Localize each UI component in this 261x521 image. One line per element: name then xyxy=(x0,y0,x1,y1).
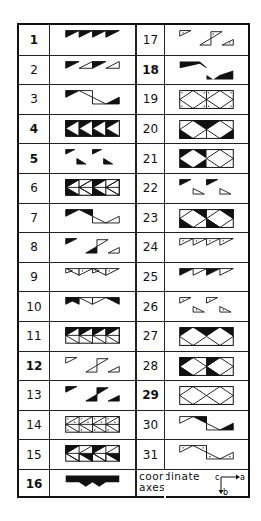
pattern-8-icon xyxy=(49,233,136,262)
pattern-27-icon xyxy=(165,322,248,351)
pattern-number: 17 xyxy=(136,25,165,55)
pattern-4-icon xyxy=(49,115,136,144)
pattern-number: 9 xyxy=(19,263,49,292)
table-row: 117 xyxy=(19,25,248,55)
coordinate-axes-label: coordinateaxes xyxy=(139,471,200,493)
pattern-number: 18 xyxy=(136,56,165,85)
pattern-number: 6 xyxy=(19,174,49,203)
pattern-number: 10 xyxy=(19,292,49,321)
label-line-2: axes xyxy=(139,481,165,493)
pattern-number: 24 xyxy=(136,233,165,262)
pattern-number: 20 xyxy=(136,115,165,144)
table-row: 521 xyxy=(19,143,248,173)
pattern-9-icon xyxy=(49,263,136,292)
pattern-24-icon xyxy=(165,233,248,262)
pattern-number: 22 xyxy=(136,174,165,203)
pattern-number: 16 xyxy=(19,470,49,499)
coordinate-axes-legend: coordinateaxescab xyxy=(136,470,248,499)
table-row: 622 xyxy=(19,173,248,203)
pattern-21-icon xyxy=(165,144,248,173)
pattern-number: 15 xyxy=(19,440,49,469)
table-row: 218 xyxy=(19,55,248,85)
pattern-number: 12 xyxy=(19,352,49,381)
pattern-18-icon xyxy=(165,56,248,85)
pattern-number: 4 xyxy=(19,115,49,144)
svg-text:a: a xyxy=(240,473,245,482)
table-row: 16coordinateaxescab xyxy=(19,469,248,499)
pattern-17-icon xyxy=(165,25,248,55)
pattern-28-icon xyxy=(165,352,248,381)
svg-text:b: b xyxy=(223,488,228,497)
pattern-29-icon xyxy=(165,381,248,410)
table-row: 1329 xyxy=(19,380,248,410)
pattern-14-icon xyxy=(49,411,136,440)
pattern-13-icon xyxy=(49,381,136,410)
pattern-number: 25 xyxy=(136,263,165,292)
pattern-number: 2 xyxy=(19,56,49,85)
pattern-10-icon xyxy=(49,292,136,321)
pattern-22-icon xyxy=(165,174,248,203)
table-row: 723 xyxy=(19,203,248,233)
pattern-number: 19 xyxy=(136,85,165,114)
pattern-number: 3 xyxy=(19,85,49,114)
axes-arrows-icon: cab xyxy=(215,472,245,498)
pattern-number: 1 xyxy=(19,25,49,55)
table-row: 824 xyxy=(19,232,248,262)
pattern-number: 13 xyxy=(19,381,49,410)
table-row: 1026 xyxy=(19,291,248,321)
pattern-31-icon xyxy=(165,440,248,469)
symmetry-table: 1172183194205216227238249251026112712281… xyxy=(17,23,250,498)
table-row: 1430 xyxy=(19,410,248,440)
table-row: 1228 xyxy=(19,351,248,381)
pattern-15-icon xyxy=(49,440,136,469)
pattern-5-icon xyxy=(49,144,136,173)
pattern-number: 8 xyxy=(19,233,49,262)
pattern-number: 27 xyxy=(136,322,165,351)
pattern-number: 29 xyxy=(136,381,165,410)
pattern-number: 28 xyxy=(136,352,165,381)
pattern-number: 26 xyxy=(136,292,165,321)
table-row: 925 xyxy=(19,262,248,292)
pattern-number: 23 xyxy=(136,204,165,233)
pattern-number: 5 xyxy=(19,144,49,173)
table-row: 420 xyxy=(19,114,248,144)
pattern-25-icon xyxy=(165,263,248,292)
pattern-19-icon xyxy=(165,85,248,114)
table-row: 319 xyxy=(19,84,248,114)
table-row: 1127 xyxy=(19,321,248,351)
pattern-1-icon xyxy=(49,25,136,55)
table-row: 1531 xyxy=(19,439,248,469)
pattern-23-icon xyxy=(165,204,248,233)
pattern-30-icon xyxy=(165,411,248,440)
pattern-number: 30 xyxy=(136,411,165,440)
pattern-number: 21 xyxy=(136,144,165,173)
pattern-number: 7 xyxy=(19,204,49,233)
pattern-6-icon xyxy=(49,174,136,203)
pattern-3-icon xyxy=(49,85,136,114)
pattern-12-icon xyxy=(49,352,136,381)
pattern-16-icon xyxy=(49,470,136,499)
pattern-number: 14 xyxy=(19,411,49,440)
pattern-2-icon xyxy=(49,56,136,85)
pattern-number: 31 xyxy=(136,440,165,469)
svg-text:c: c xyxy=(215,473,219,482)
divider-mask xyxy=(164,470,166,500)
pattern-26-icon xyxy=(165,292,248,321)
pattern-11-icon xyxy=(49,322,136,351)
pattern-20-icon xyxy=(165,115,248,144)
pattern-7-icon xyxy=(49,204,136,233)
pattern-number: 11 xyxy=(19,322,49,351)
